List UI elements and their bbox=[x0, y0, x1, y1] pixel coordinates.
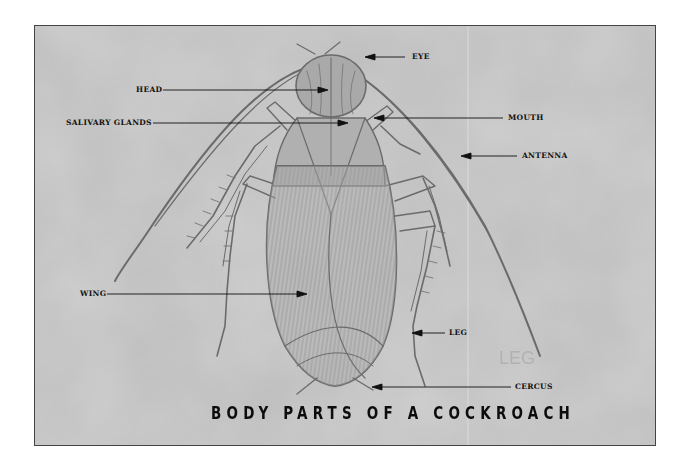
label-wing: WING bbox=[80, 290, 106, 298]
diagram-frame: LEG bbox=[34, 25, 656, 446]
label-head: HEAD bbox=[136, 86, 162, 94]
label-salivary-glands: SALIVARY GLANDS bbox=[66, 119, 152, 127]
diagram-title: BODY PARTS OF A COCKROACH bbox=[211, 403, 575, 424]
watermark-text: LEG bbox=[499, 348, 535, 368]
label-cercus: CERCUS bbox=[515, 383, 553, 391]
cockroach-illustration: LEG bbox=[35, 26, 655, 445]
label-mouth: MOUTH bbox=[508, 114, 544, 122]
label-leg: LEG bbox=[449, 329, 467, 337]
label-eye: EYE bbox=[412, 53, 430, 61]
label-antenna: ANTENNA bbox=[522, 152, 568, 160]
